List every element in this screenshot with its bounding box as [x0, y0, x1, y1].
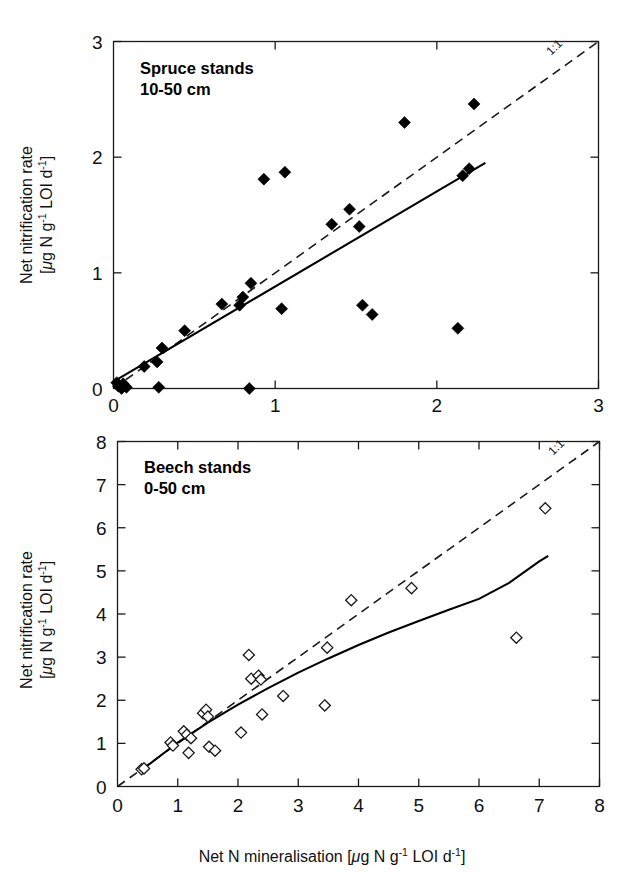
xlabel-tail: ]: [461, 848, 465, 865]
ylabel-mu-beech: μ: [38, 666, 55, 676]
figure-background: [0, 0, 629, 891]
ylabel-mid1-spruce: g N g: [38, 223, 55, 261]
xlabel-sup2: -1: [452, 846, 461, 858]
x-tick-label: 3: [593, 395, 604, 416]
beech-y-tick-labels: 012345678: [96, 432, 107, 798]
svg-text:Net N mineralisation [μg N g-1: Net N mineralisation [μg N g-1 LOI d-1]: [199, 846, 466, 865]
y-tick-label: 4: [96, 604, 107, 625]
ylabel-sup1-spruce: -1: [36, 213, 48, 222]
x-tick-label: 6: [474, 795, 485, 816]
ylabel-bracket-close-beech: ]: [38, 561, 55, 565]
x-tick-label: 1: [270, 395, 281, 416]
x-tick-label: 0: [108, 395, 119, 416]
y-tick-label: 1: [92, 263, 103, 284]
y-tick-label: 8: [96, 432, 107, 453]
ylabel-sup1-beech: -1: [36, 618, 48, 627]
ylabel-line1-spruce: Net nitrification rate: [18, 146, 35, 284]
ylabel-line1-beech: Net nitrification rate: [18, 551, 35, 689]
x-axis-title: Net N mineralisation [μg N g-1 LOI d-1]: [199, 846, 466, 865]
y-tick-label: 0: [96, 777, 107, 798]
y-tick-label: 7: [96, 475, 107, 496]
xlabel-sup1: -1: [399, 846, 408, 858]
y-tick-label: 3: [92, 32, 103, 53]
ylabel-sup2-spruce: -1: [36, 160, 48, 169]
scatter-figure: 0123 0123 Spruce stands 10-50 cm 1:1 012…: [0, 0, 629, 891]
ylabel-mid2-spruce: LOI d: [38, 170, 55, 214]
ylabel-sup2-beech: -1: [36, 565, 48, 574]
figure-container: 0123 0123 Spruce stands 10-50 cm 1:1 012…: [0, 0, 629, 891]
beech-subtitle: 0-50 cm: [144, 479, 205, 497]
x-tick-label: 4: [353, 795, 364, 816]
ylabel-mid2-beech: LOI d: [38, 575, 55, 619]
x-tick-label: 2: [432, 395, 443, 416]
y-tick-label: 6: [96, 518, 107, 539]
y-tick-label: 5: [96, 561, 107, 582]
y-tick-label: 0: [92, 379, 103, 400]
x-tick-label: 3: [293, 795, 304, 816]
xlabel-lead: Net N mineralisation [: [199, 848, 353, 865]
xlabel-mid2: LOI d: [408, 848, 452, 865]
x-tick-label: 5: [413, 795, 424, 816]
spruce-subtitle: 10-50 cm: [140, 80, 211, 98]
ylabel-mid1-beech: g N g: [38, 628, 55, 666]
svg-text:Net nitrification rate: Net nitrification rate: [18, 146, 35, 284]
x-tick-label: 0: [112, 795, 123, 816]
y-tick-label: 2: [92, 147, 103, 168]
x-tick-label: 7: [534, 795, 545, 816]
spruce-title: Spruce stands: [140, 59, 254, 77]
y-tick-label: 2: [96, 690, 107, 711]
ylabel-mu-spruce: μ: [38, 261, 55, 271]
beech-title: Beech stands: [144, 458, 251, 476]
xlabel-mu: μ: [351, 848, 361, 865]
svg-text:Net nitrification rate: Net nitrification rate: [18, 551, 35, 689]
y-tick-label: 1: [96, 733, 107, 754]
x-tick-label: 8: [594, 795, 605, 816]
y-tick-label: 3: [96, 647, 107, 668]
x-tick-label: 1: [172, 795, 183, 816]
x-tick-label: 2: [233, 795, 244, 816]
xlabel-mid1: g N g: [360, 848, 398, 865]
ylabel-bracket-close-spruce: ]: [38, 156, 55, 160]
